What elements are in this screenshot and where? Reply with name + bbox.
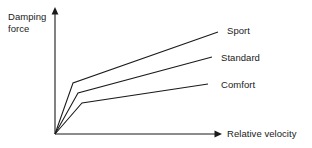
y-axis-label-line1: Damping	[8, 11, 46, 22]
curve-sport	[55, 32, 218, 134]
curve-comfort	[55, 84, 208, 134]
y-axis-label-line2: force	[8, 23, 29, 34]
x-axis-arrow-icon	[215, 131, 223, 138]
damping-force-chart: Damping force Relative velocity Sport St…	[0, 0, 312, 148]
x-axis-label: Relative velocity	[227, 128, 297, 140]
series-label-sport: Sport	[227, 25, 250, 37]
series-label-standard: Standard	[221, 52, 260, 64]
y-axis-label: Damping force	[8, 11, 54, 34]
series-label-comfort: Comfort	[221, 79, 255, 91]
